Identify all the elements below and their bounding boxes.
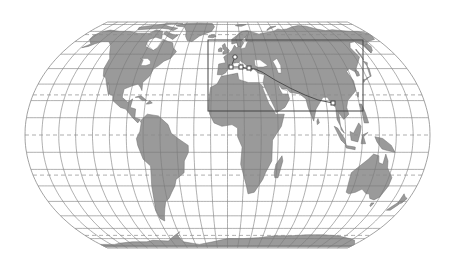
route-marker-stop-1 (233, 55, 237, 59)
map-canvas (0, 0, 454, 266)
route-marker-stop-3 (239, 65, 243, 69)
route-marker-stop-5 (331, 101, 335, 105)
route-marker-stop-4 (247, 66, 251, 70)
world-map: World map (Equal Earth-like projection) … (0, 0, 454, 266)
route-marker-stop-2 (229, 65, 233, 69)
